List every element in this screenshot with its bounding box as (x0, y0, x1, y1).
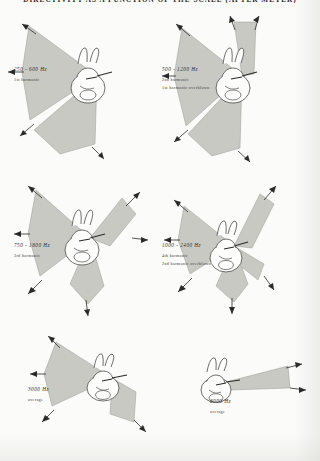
panel-8000-labels: 8000 Hz average (210, 398, 231, 414)
running-head: DIRECTIVITY AS A FUNCTION OF THE SCALE (… (0, 0, 320, 3)
panel-8000: 8000 Hz average (180, 340, 320, 450)
radiation-lobe (234, 194, 274, 248)
panel-1000-2400-sub2: 2nd harmonic overblown (162, 261, 211, 266)
panel-500-1200-freq: 500 - 1200 Hz (162, 66, 210, 72)
panel-1000-2400-sub1: 4th harmonic (162, 253, 211, 258)
panel-3000-freq: 3000 Hz (28, 386, 49, 392)
lobe-group (226, 366, 290, 390)
panel-750-1800-sub1: 3rd harmonic (14, 253, 50, 258)
panel-250-600: 250 - 600 Hz 1st harmonic (0, 14, 160, 164)
panel-250-600-sub1: 1st harmonic (14, 77, 47, 82)
player-illustration (71, 48, 112, 103)
panel-3000: 3000 Hz average (10, 330, 170, 450)
panel-500-1200: 500 - 1200 Hz 2nd harmonic 1st harmonic … (160, 14, 320, 164)
radiation-lobe (226, 366, 290, 390)
panel-8000-sub1: average (210, 409, 231, 414)
radiation-lobe (90, 198, 136, 246)
panel-8000-freq: 8000 Hz (210, 398, 231, 404)
panel-250-600-diagram (0, 14, 160, 164)
panel-500-1200-sub1: 2nd harmonic (162, 77, 210, 82)
panel-500-1200-sub2: 1st harmonic overblown (162, 85, 210, 90)
figure-page: DIRECTIVITY AS A FUNCTION OF THE SCALE (… (0, 0, 320, 461)
panel-750-1800-labels: 750 - 1800 Hz 3rd harmonic (14, 242, 50, 258)
panel-1000-2400-freq: 1000 - 2400 Hz (162, 242, 211, 248)
panel-1000-2400-labels: 1000 - 2400 Hz 4th harmonic 2nd harmonic… (162, 242, 211, 266)
panel-1000-2400: 1000 - 2400 Hz 4th harmonic 2nd harmonic… (160, 180, 320, 320)
panel-500-1200-labels: 500 - 1200 Hz 2nd harmonic 1st harmonic … (162, 66, 210, 90)
panel-250-600-freq: 250 - 600 Hz (14, 66, 47, 72)
panel-3000-labels: 3000 Hz average (28, 386, 49, 402)
panel-750-1800-freq: 750 - 1800 Hz (14, 242, 50, 248)
panel-250-600-labels: 250 - 600 Hz 1st harmonic (14, 66, 47, 82)
panel-3000-sub1: average (28, 397, 49, 402)
panel-750-1800: 750 - 1800 Hz 3rd harmonic (0, 180, 160, 320)
radiation-lobe (234, 22, 256, 76)
panel-8000-diagram (180, 340, 320, 450)
